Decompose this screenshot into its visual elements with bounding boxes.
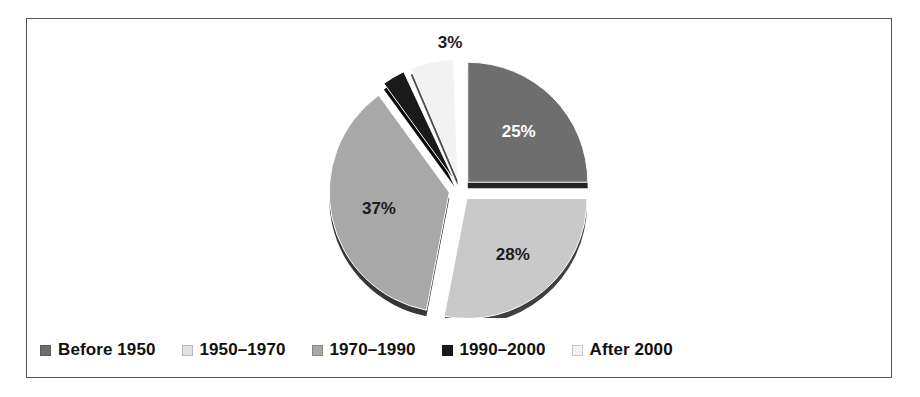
legend-item-label: 1950–1970	[200, 340, 286, 360]
legend-swatch-icon	[312, 345, 323, 356]
legend-swatch-icon	[572, 345, 583, 356]
pie-external-value-label: 3%	[438, 33, 463, 52]
legend-item[interactable]: Before 1950	[40, 340, 156, 360]
pie-slice-value-label: 37%	[362, 199, 396, 218]
pie-slice-value-label: 28%	[496, 245, 530, 264]
legend-item-label: After 2000	[590, 340, 673, 360]
legend-item[interactable]: 1990–2000	[442, 340, 546, 360]
chart-legend: Before 19501950–19701970–19901990–2000Af…	[26, 330, 892, 370]
pie-chart-plot-area: 25%28%37%3%	[26, 18, 892, 318]
pie-chart-figure: 25%28%37%3% Before 19501950–19701970–199…	[0, 0, 920, 397]
pie-svg: 25%28%37%3%	[26, 18, 892, 318]
legend-swatch-icon	[182, 345, 193, 356]
legend-swatch-icon	[442, 345, 453, 356]
legend-item[interactable]: 1950–1970	[182, 340, 286, 360]
pie-slice-group	[329, 59, 588, 318]
legend-item[interactable]: 1970–1990	[312, 340, 416, 360]
legend-item-label: 1970–1990	[330, 340, 416, 360]
legend-swatch-icon	[40, 345, 51, 356]
legend-item-label: 1990–2000	[460, 340, 546, 360]
legend-item[interactable]: After 2000	[572, 340, 673, 360]
pie-slice-value-label: 25%	[502, 122, 536, 141]
legend-item-label: Before 1950	[58, 340, 156, 360]
